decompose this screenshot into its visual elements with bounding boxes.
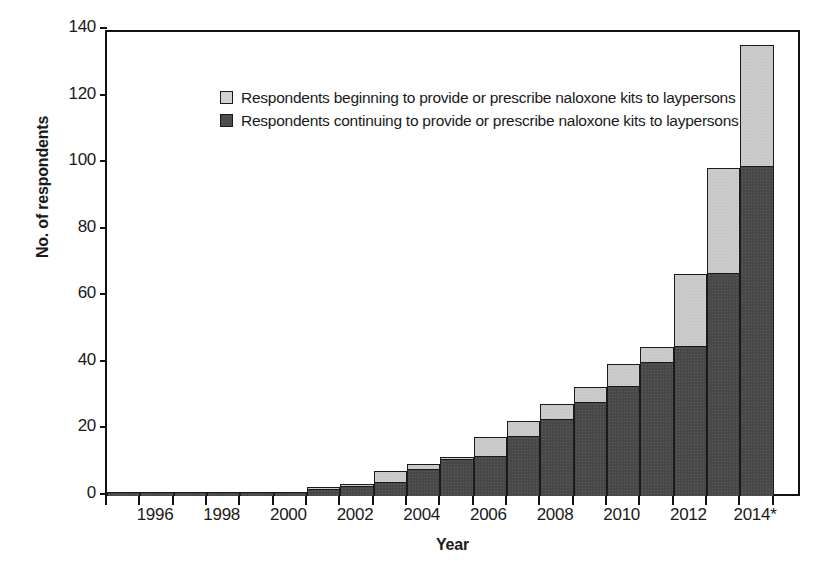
x-tick-label-2004: 2004 — [403, 505, 440, 525]
x-tick-mark — [505, 496, 507, 505]
x-tick-mark — [205, 496, 207, 505]
y-tick-mark — [100, 493, 107, 495]
x-tick-label-2002: 2002 — [337, 505, 374, 525]
bar-segment-beginning — [607, 364, 640, 387]
bar-segment-continuing — [674, 346, 707, 496]
x-tick-mark — [405, 496, 407, 505]
y-tick-label: 120 — [69, 84, 96, 104]
bar-segment-continuing — [540, 419, 573, 496]
y-tick-mark — [100, 27, 107, 29]
x-tick-label-1996: 1996 — [137, 505, 174, 525]
y-tick-label: 80 — [78, 217, 96, 237]
bar-column — [107, 32, 140, 494]
x-tick-mark — [472, 496, 474, 505]
x-tick-label-2014: 2014* — [734, 505, 777, 525]
x-tick-label-2006: 2006 — [470, 505, 507, 525]
bar-segment-continuing — [574, 402, 607, 495]
legend-swatch-light-icon — [220, 91, 233, 104]
bar-segment-continuing — [740, 166, 773, 496]
y-tick-label: 140 — [69, 17, 96, 37]
x-axis-title: Year — [105, 536, 800, 554]
x-tick-mark — [272, 496, 274, 505]
bar-segment-continuing — [707, 273, 740, 496]
x-tick-mark — [338, 496, 340, 505]
x-tick-label-2010: 2010 — [603, 505, 640, 525]
bar-column — [740, 32, 773, 494]
x-tick-mark — [572, 496, 574, 505]
y-tick-mark — [100, 227, 107, 229]
y-tick-label: 100 — [69, 150, 96, 170]
bar-segment-beginning — [674, 274, 707, 347]
plot-area: 020406080100120140 Respondents beginning… — [105, 30, 800, 496]
bar-segment-beginning — [740, 45, 773, 168]
y-axis-title: No. of respondents — [34, 82, 52, 292]
x-tick-label-2000: 2000 — [270, 505, 307, 525]
y-tick-label: 20 — [78, 416, 96, 436]
legend-item-beginning: Respondents beginning to provide or pres… — [220, 87, 739, 108]
legend-swatch-dark-icon — [220, 114, 233, 127]
x-tick-mark — [105, 496, 107, 505]
x-tick-mark — [738, 496, 740, 505]
bar-column — [140, 32, 173, 494]
y-tick-mark — [100, 160, 107, 162]
x-tick-label-2008: 2008 — [537, 505, 574, 525]
chart-figure: No. of respondents 020406080100120140 Re… — [0, 0, 824, 573]
x-tick-mark — [172, 496, 174, 505]
bar-column — [174, 32, 207, 494]
legend-item-continuing: Respondents continuing to provide or pre… — [220, 110, 739, 131]
x-tick-mark — [638, 496, 640, 505]
x-tick-mark — [538, 496, 540, 505]
x-tick-mark — [772, 496, 774, 505]
y-tick-label: 40 — [78, 350, 96, 370]
x-tick-mark — [605, 496, 607, 505]
legend-label-beginning: Respondents beginning to provide or pres… — [241, 89, 735, 107]
x-tick-mark — [372, 496, 374, 505]
y-tick-mark — [100, 426, 107, 428]
x-tick-mark — [138, 496, 140, 505]
y-tick-label: 0 — [87, 483, 96, 503]
bar-segment-continuing — [640, 362, 673, 495]
legend-label-continuing: Respondents continuing to provide or pre… — [241, 112, 739, 130]
x-tick-label-1998: 1998 — [203, 505, 240, 525]
x-tick-mark — [305, 496, 307, 505]
bar-segment-beginning — [474, 437, 507, 457]
bar-segment-continuing — [374, 482, 407, 495]
bar-segment-beginning — [707, 168, 740, 275]
x-tick-mark — [238, 496, 240, 505]
x-tick-mark — [672, 496, 674, 505]
y-tick-label: 60 — [78, 283, 96, 303]
bar-segment-continuing — [507, 436, 540, 496]
y-tick-mark — [100, 360, 107, 362]
bar-segment-continuing — [340, 486, 373, 496]
bar-segment-continuing — [407, 469, 440, 496]
y-tick-mark — [100, 94, 107, 96]
y-tick-mark — [100, 293, 107, 295]
x-tick-label-2012: 2012 — [670, 505, 707, 525]
bar-segment-continuing — [307, 489, 340, 496]
x-tick-mark — [438, 496, 440, 505]
x-tick-mark — [705, 496, 707, 505]
chart-legend: Respondents beginning to provide or pres… — [220, 87, 739, 131]
bar-segment-continuing — [440, 459, 473, 496]
bar-segment-continuing — [474, 456, 507, 496]
x-axis-tick-labels: 1996199820002002200420062008201020122014… — [105, 505, 800, 531]
bar-segment-continuing — [607, 386, 640, 496]
